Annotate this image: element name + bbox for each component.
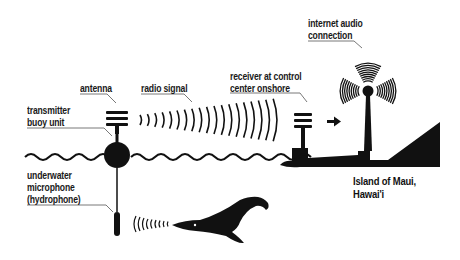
- label-radio-signal: radio signal: [141, 82, 187, 94]
- receiver-antenna-icon: [294, 113, 312, 148]
- sound-waves-icon: [134, 216, 168, 232]
- label-text: microphone: [27, 181, 81, 193]
- arrow-right-icon: [327, 117, 341, 127]
- label-antenna: antenna: [80, 82, 112, 94]
- label-text: center onshore: [230, 82, 302, 94]
- antenna-icon: [106, 111, 128, 134]
- buoy-icon: [104, 132, 130, 212]
- label-text: receiver at control: [230, 70, 302, 82]
- label-internet: internet audio connection: [308, 17, 363, 41]
- hydrophone-icon: [114, 212, 120, 236]
- label-transmitter: transmitter buoy unit: [27, 104, 70, 128]
- label-text: (hydrophone): [27, 193, 81, 205]
- label-text: underwater: [27, 169, 81, 181]
- label-text: internet audio: [308, 17, 363, 29]
- label-text: connection: [308, 29, 363, 41]
- whale-icon: [172, 197, 269, 243]
- diagram-canvas: [0, 0, 460, 260]
- broadcast-tower-icon: [363, 86, 374, 152]
- label-text: radio signal: [141, 82, 187, 94]
- label-island: Island of Maui, Hawai'i: [353, 175, 416, 201]
- label-receiver: receiver at control center onshore: [230, 70, 302, 94]
- label-text: buoy unit: [27, 116, 70, 128]
- label-text: Island of Maui,: [353, 175, 416, 188]
- label-text: Hawai'i: [353, 188, 416, 201]
- label-hydrophone: underwater microphone (hydrophone): [27, 169, 81, 205]
- label-text: antenna: [80, 82, 112, 94]
- sea-waves-icon: [131, 154, 311, 160]
- label-text: transmitter: [27, 104, 70, 116]
- radio-waves-icon: [140, 99, 277, 141]
